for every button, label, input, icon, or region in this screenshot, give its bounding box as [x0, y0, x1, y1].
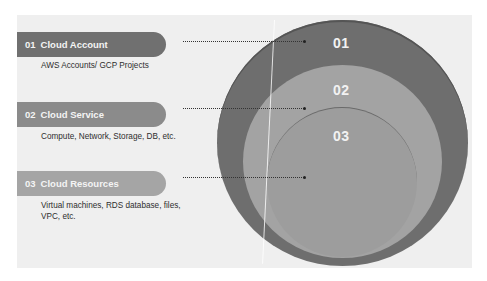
layer-02-label: Cloud Service: [41, 109, 104, 120]
layer-02-description: Compute, Network, Storage, DB, etc.: [41, 131, 177, 142]
layer-01-pill: 01Cloud Account: [17, 32, 166, 57]
layer-03-circle-label: 03: [333, 128, 350, 144]
connector-01: [183, 41, 304, 42]
layer-01-number: 01: [25, 39, 36, 50]
connector-02-dot: [303, 107, 306, 110]
layer-03-number: 03: [25, 178, 36, 189]
layer-02-pill: 02Cloud Service: [17, 102, 166, 127]
connector-03: [183, 177, 304, 178]
layer-01-label: Cloud Account: [41, 39, 108, 50]
layer-02-circle-label: 02: [333, 82, 350, 98]
layer-01-description: AWS Accounts/ GCP Projects: [41, 60, 181, 71]
connector-01-dot: [303, 40, 306, 43]
connector-03-dot: [303, 176, 306, 179]
layer-03-label: Cloud Resources: [41, 178, 119, 189]
layer-03-description: Virtual machines, RDS database, files, V…: [41, 200, 181, 222]
layer-01-circle-label: 01: [333, 35, 350, 51]
layer-03-pill: 03Cloud Resources: [17, 171, 166, 196]
layer-02-number: 02: [25, 109, 36, 120]
connector-02: [183, 108, 304, 109]
